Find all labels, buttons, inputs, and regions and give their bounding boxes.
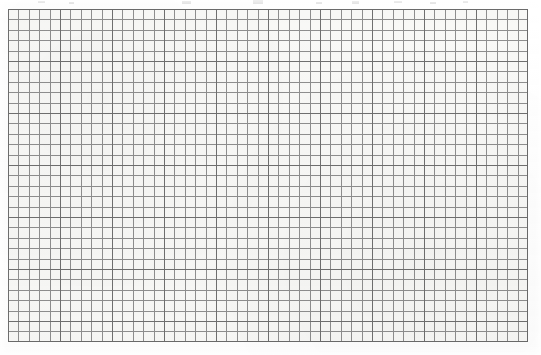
scan-smudge-mark <box>394 1 402 3</box>
scan-smudge-mark <box>253 0 263 4</box>
scan-smudge-mark <box>352 1 359 4</box>
graph-paper-grid <box>8 9 528 342</box>
page-root: Blank graph paper: ruled grid only, no p… <box>0 0 541 355</box>
scan-smudge-mark <box>430 2 436 4</box>
scan-smudge-mark <box>69 2 74 4</box>
grid-description: Blank graph paper: ruled grid only, no p… <box>0 0 1 1</box>
scan-smudge-mark <box>463 1 468 3</box>
scan-smudge-mark <box>316 2 322 4</box>
scan-smudge-mark <box>38 1 45 3</box>
scan-smudge-mark <box>182 1 191 4</box>
